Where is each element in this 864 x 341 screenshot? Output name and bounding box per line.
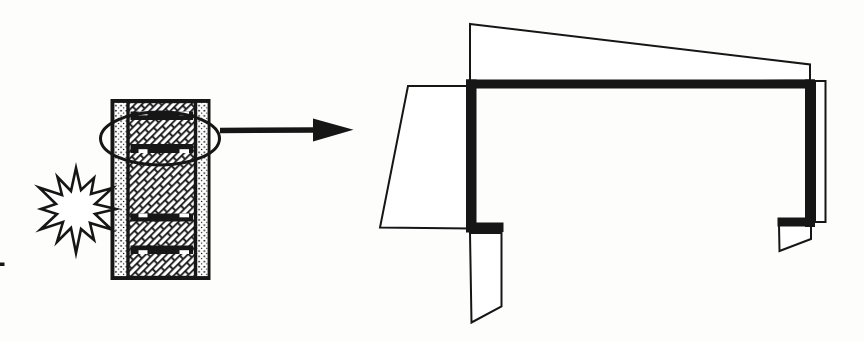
track-4-notch-right <box>180 250 190 254</box>
track-detail-left-foot <box>466 223 504 233</box>
track-detail-left-leg <box>466 80 477 233</box>
deformed-flap-bottom-left <box>470 233 502 323</box>
track-3-notch-left <box>139 214 148 218</box>
deformed-web-right <box>815 81 826 222</box>
track-3-notch-right <box>180 214 190 218</box>
deformed-web-left <box>380 86 470 229</box>
track-2-notch-left <box>139 149 148 153</box>
track-detail-right-leg <box>805 80 815 228</box>
diagram-shapes <box>0 24 826 323</box>
track-detail-top-flange <box>466 80 815 89</box>
deformed-flap-bottom-right <box>779 225 811 251</box>
track-4-notch-left <box>139 250 148 254</box>
scan-artifact-speck <box>0 263 5 267</box>
track-2-notch-right <box>180 149 190 153</box>
deformed-flange-top <box>470 24 810 84</box>
track-detail-right-foot <box>778 218 816 227</box>
wall-outer-leaf-left <box>114 102 129 277</box>
impact-burst-icon <box>39 168 116 253</box>
leader-arrow-shaft <box>220 130 316 131</box>
diagram-svg <box>0 0 864 341</box>
leader-arrow-head-icon <box>313 119 354 142</box>
figure-canvas <box>0 0 864 341</box>
wall-outer-leaf-right <box>196 102 209 277</box>
